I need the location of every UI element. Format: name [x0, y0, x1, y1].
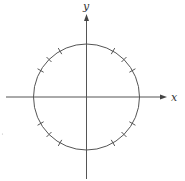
tick-mark-60deg [111, 48, 115, 54]
tick-mark-240deg [58, 140, 62, 146]
y-axis-arrow-icon [84, 14, 89, 21]
tick-mark-30deg [129, 69, 135, 73]
artifact-dot [2, 133, 3, 134]
tick-mark-120deg [58, 48, 62, 54]
unit-circle-diagram: x y [0, 0, 185, 181]
tick-mark-150deg [38, 69, 44, 73]
y-axis-label: y [82, 0, 90, 13]
tick-mark-330deg [129, 122, 135, 126]
x-axis-label: x [171, 91, 178, 104]
tick-mark-300deg [111, 140, 115, 146]
x-axis-arrow-icon [160, 95, 167, 100]
tick-mark-210deg [38, 122, 44, 126]
